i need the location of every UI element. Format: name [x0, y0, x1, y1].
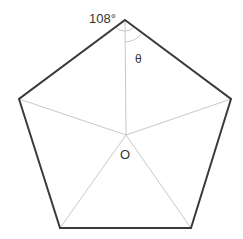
pentagon-diagram [0, 0, 243, 239]
angle-label: 108° [89, 12, 116, 25]
theta-label: θ [135, 53, 142, 65]
center-label: O [120, 148, 130, 161]
